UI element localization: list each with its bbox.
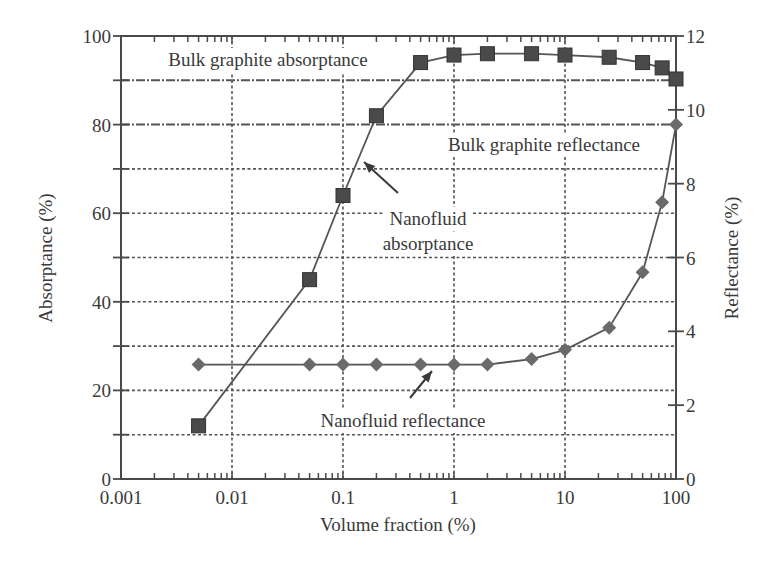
x-tick-label: 0.01 — [215, 487, 248, 508]
absorptance-reflectance-chart: 0.0010.010.1110100020406080100024681012 … — [0, 0, 771, 564]
reflectance-marker-diamond — [558, 343, 572, 357]
y-tick-label: 100 — [83, 26, 112, 47]
x-tick-label: 1 — [449, 487, 459, 508]
reflectance-marker-diamond — [669, 118, 683, 132]
y2-tick-label: 6 — [686, 248, 696, 269]
chart-svg: 0.0010.010.1110100020406080100024681012 … — [0, 0, 771, 564]
y-tick-label: 0 — [102, 469, 112, 490]
annotation-label: Bulk graphite reflectance — [448, 134, 640, 155]
reference-lines — [121, 80, 676, 124]
y-axis-title: Absorptance (%) — [35, 193, 57, 322]
reflectance-marker-diamond — [447, 358, 461, 372]
reflectance-marker-diamond — [336, 358, 350, 372]
x-axis-title: Volume fraction (%) — [320, 514, 476, 536]
reflectance-marker-diamond — [636, 265, 650, 279]
reflectance-marker-diamond — [369, 358, 383, 372]
annotation-label: Nanofluid — [389, 208, 467, 229]
x-tick-label: 100 — [662, 487, 691, 508]
y2-tick-label: 12 — [686, 26, 705, 47]
absorptance-marker-square — [655, 61, 669, 75]
reflectance-marker-diamond — [480, 358, 494, 372]
absorptance-marker-square — [336, 188, 350, 202]
y2-tick-label: 0 — [686, 469, 696, 490]
absorptance-marker-square — [369, 109, 383, 123]
y2-axis-title: Reflectance (%) — [721, 197, 743, 320]
reflectance-marker-diamond — [303, 358, 317, 372]
annotation-label: Bulk graphite absorptance — [168, 49, 367, 70]
y2-tick-label: 2 — [686, 395, 696, 416]
y-tick-label: 60 — [92, 203, 111, 224]
y2-tick-label: 8 — [686, 174, 696, 195]
y-tick-label: 40 — [92, 292, 111, 313]
annotations: Bulk graphite absorptanceBulk graphite r… — [154, 48, 658, 433]
reflectance-marker-diamond — [192, 358, 206, 372]
absorptance-marker-square — [447, 48, 461, 62]
reflectance-marker-diamond — [602, 321, 616, 335]
y-tick-label: 20 — [92, 380, 111, 401]
absorptance-marker-square — [303, 273, 317, 287]
y2-tick-label: 10 — [686, 100, 705, 121]
y2-tick-label: 4 — [686, 321, 696, 342]
absorptance-marker-square — [192, 419, 206, 433]
reflectance-marker-diamond — [525, 352, 539, 366]
absorptance-marker-square — [525, 47, 539, 61]
y-tick-label: 80 — [92, 115, 111, 136]
axis-ticks: 0.0010.010.1110100020406080100024681012 — [83, 26, 706, 508]
absorptance-marker-square — [558, 48, 572, 62]
absorptance-marker-square — [480, 47, 494, 61]
annotation-label: absorptance — [383, 233, 474, 254]
reflectance-marker-diamond — [655, 195, 669, 209]
absorptance-marker-square — [636, 56, 650, 70]
absorptance-marker-square — [669, 72, 683, 86]
x-tick-label: 0.1 — [331, 487, 355, 508]
reflectance-marker-diamond — [414, 358, 428, 372]
annotation-label: Nanofluid reflectance — [320, 410, 485, 431]
x-tick-label: 0.001 — [100, 487, 143, 508]
absorptance-marker-square — [602, 50, 616, 64]
x-tick-label: 10 — [556, 487, 575, 508]
absorptance-marker-square — [414, 56, 428, 70]
